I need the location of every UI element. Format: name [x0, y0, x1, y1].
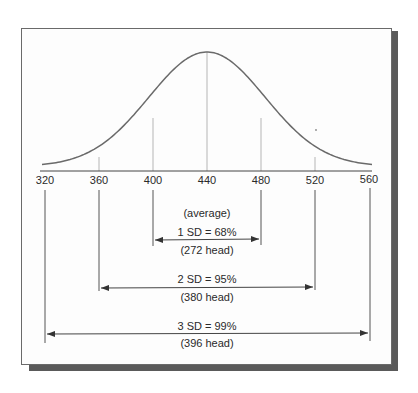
normal-distribution-diagram: 320 360 400 440 480 520 560 (average) 1 …: [0, 0, 418, 393]
x-axis-ticks: 320 360 400 440 480 520 560: [36, 173, 378, 186]
tick-label: 440: [198, 174, 216, 186]
range-count: (272 head): [180, 244, 233, 256]
range-1sd: 1 SD = 68% (272 head): [155, 226, 259, 256]
range-count: (396 head): [180, 337, 233, 349]
tick-label: 520: [306, 174, 324, 186]
double-arrow-icon: [155, 239, 259, 240]
range-label: 3 SD = 99%: [177, 320, 236, 332]
curve-guide-lines: [99, 52, 315, 171]
tick-label: 560: [360, 173, 378, 185]
range-count: (380 head): [180, 291, 233, 303]
range-label: 2 SD = 95%: [177, 273, 236, 285]
mean-label: (average): [183, 207, 230, 219]
range-2sd: 2 SD = 95% (380 head): [101, 273, 313, 303]
double-arrow-icon: [101, 287, 313, 288]
tick-label: 360: [90, 174, 108, 186]
range-label: 1 SD = 68%: [177, 226, 236, 238]
print-speck: [315, 129, 317, 131]
tick-label: 400: [144, 174, 162, 186]
double-arrow-icon: [47, 333, 368, 334]
tick-label: 320: [36, 174, 54, 186]
tick-label: 480: [252, 174, 270, 186]
range-3sd: 3 SD = 99% (396 head): [47, 320, 368, 349]
